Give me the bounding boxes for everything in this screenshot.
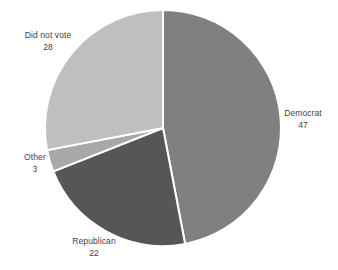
- pie-label-republican: Republican 22: [52, 236, 136, 259]
- pie-label-democrat: Democrat 47: [272, 108, 334, 131]
- pie-label-democrat-name: Democrat: [272, 108, 334, 120]
- pie-label-republican-value: 22: [52, 248, 136, 260]
- pie-label-republican-name: Republican: [52, 236, 136, 248]
- pie-label-did-not-vote-name: Did not vote: [6, 30, 90, 42]
- pie-label-democrat-value: 47: [272, 120, 334, 132]
- pie-chart-figure: Democrat 47 Republican 22 Other 3 Did no…: [0, 0, 338, 270]
- pie-label-did-not-vote-value: 28: [6, 42, 90, 54]
- pie-label-did-not-vote: Did not vote 28: [6, 30, 90, 53]
- pie-label-other-name: Other: [8, 152, 62, 164]
- pie-slice-democrat[interactable]: [163, 10, 281, 244]
- pie-label-other-value: 3: [8, 164, 62, 176]
- pie-label-other: Other 3: [8, 152, 62, 175]
